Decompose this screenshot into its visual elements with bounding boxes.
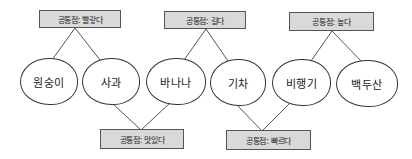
group-box-long: 공통점: 길다	[164, 11, 246, 29]
connector-line	[112, 103, 141, 130]
node-baekdusan: 백두산	[336, 60, 398, 107]
connector-line	[141, 103, 170, 130]
connector-line	[311, 31, 332, 61]
group-box-fast: 공통점: 빠르다	[226, 130, 311, 150]
connector-line	[236, 104, 262, 131]
connector-line	[184, 29, 206, 60]
node-airplane: 비행기	[272, 59, 331, 106]
connector-line	[52, 28, 75, 60]
node-monkey: 원숭이	[20, 58, 78, 105]
connector-line	[332, 31, 362, 62]
connector-line	[206, 29, 228, 61]
group-box-high: 공통점: 높다	[289, 12, 374, 31]
group-box-tasty: 공통점: 맛있다	[100, 129, 184, 149]
node-train: 기차	[210, 59, 266, 106]
node-banana: 바나나	[146, 58, 206, 105]
group-box-red: 공통점: 빨갛다	[39, 10, 121, 28]
node-apple: 사과	[82, 58, 140, 105]
connector-line	[75, 28, 100, 60]
connector-line	[262, 104, 289, 131]
